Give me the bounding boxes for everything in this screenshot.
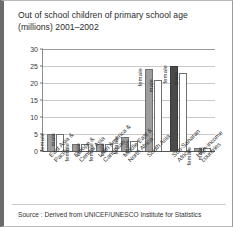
bar-series-label-female: female (36, 114, 42, 133)
x-axis-category-label: Latin America &Caribbean (95, 152, 112, 198)
chart-title-line-1: Out of school children of primary school… (18, 10, 223, 22)
y-axis-tick-label-20: 20 (30, 80, 38, 87)
chart-title-line-2: (millions) 2001–2002 (18, 22, 223, 34)
x-axis-category-label: Sub-SaharanAfrica (169, 152, 186, 198)
chart-title: Out of school children of primary school… (18, 10, 223, 33)
bar-series-label-male: male (145, 65, 151, 78)
source-note: Source : Derived from UNICEF/UNESCO Inst… (18, 211, 201, 218)
figure-inner: Out of school children of primary school… (4, 1, 232, 226)
y-axis-tick-label-0: 0 (34, 148, 38, 155)
figure-container: Out of school children of primary school… (0, 0, 233, 227)
x-axis-category-label: High-incomecountries (193, 152, 210, 198)
x-axis-category-label: Middle East &North Africa (120, 152, 137, 198)
y-axis-tick-label-30: 30 (30, 46, 38, 53)
bar-series-label-male: male (170, 58, 176, 71)
bar-series-label-female: female (134, 50, 140, 69)
y-axis-tick-label-25: 25 (30, 63, 38, 70)
x-axis-labels: East Asia &PacificEurope &Central AsiaLa… (42, 152, 214, 198)
x-axis-category-label: Europe &Central Asia (71, 152, 88, 198)
source-divider (12, 204, 226, 205)
x-axis-category-label: South Asia (144, 152, 161, 198)
bar-series-label-male: male (47, 120, 53, 133)
x-axis-category-label: East Asia &Pacific (46, 152, 63, 198)
y-axis-tick-label-15: 15 (30, 97, 38, 104)
bar-series-label-female: female (158, 46, 164, 65)
